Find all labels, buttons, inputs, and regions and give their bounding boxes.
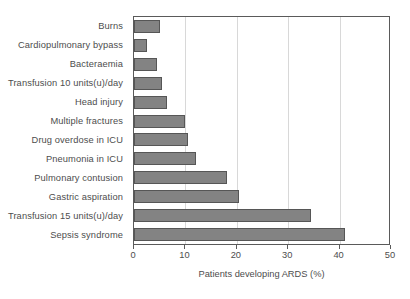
bar-row [134,149,389,168]
tick-label: 20 [231,250,241,260]
category-label: Pulmonary contusion [0,169,128,188]
bar-row [134,168,389,187]
bar [134,228,345,241]
bars-layer [134,17,389,244]
bar-row [134,206,389,225]
category-labels: BurnsCardiopulmonary bypassBacteraemiaTr… [0,16,128,245]
bar [134,190,239,203]
category-label: Sepsis syndrome [0,226,128,245]
tick-mark [133,245,134,249]
bar-row [134,36,389,55]
bar-row [134,225,389,244]
bar [134,209,311,222]
tick-label: 0 [130,250,135,260]
tick-mark [184,245,185,249]
x-axis-title: Patients developing ARDS (%) [133,269,390,279]
bar [134,58,157,71]
ards-bar-chart: BurnsCardiopulmonary bypassBacteraemiaTr… [0,0,410,299]
x-axis-tick-labels: 01020304050 [133,250,390,264]
bar [134,77,162,90]
plot-area [133,16,390,245]
bar [134,115,185,128]
bar [134,171,227,184]
bar-row [134,112,389,131]
tick-mark [236,245,237,249]
bar [134,39,147,52]
bar-row [134,17,389,36]
category-label: Multiple fractures [0,111,128,130]
tick-label: 30 [282,250,292,260]
category-label: Burns [0,16,128,35]
bar [134,152,196,165]
category-label: Drug overdose in ICU [0,130,128,149]
tick-mark [390,245,391,249]
bar [134,133,188,146]
bar [134,20,160,33]
bar-row [134,93,389,112]
tick-mark [339,245,340,249]
tick-mark [287,245,288,249]
category-label: Transfusion 10 units(u)/day [0,73,128,92]
bar-row [134,74,389,93]
category-label: Gastric aspiration [0,188,128,207]
tick-label: 10 [179,250,189,260]
category-label: Transfusion 15 units(u)/day [0,207,128,226]
bar-row [134,55,389,74]
category-label: Bacteraemia [0,54,128,73]
tick-label: 40 [333,250,343,260]
bar-row [134,131,389,150]
bar [134,96,167,109]
tick-label: 50 [385,250,395,260]
bar-row [134,187,389,206]
category-label: Head injury [0,92,128,111]
category-label: Cardiopulmonary bypass [0,35,128,54]
category-label: Pneumonia in ICU [0,150,128,169]
